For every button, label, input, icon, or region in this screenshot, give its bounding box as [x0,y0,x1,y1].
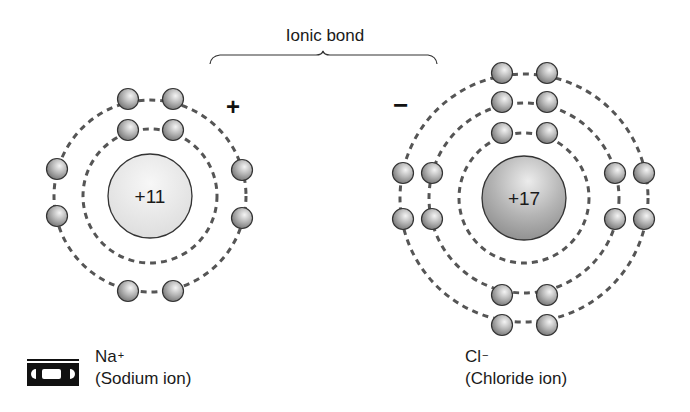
sodium-name-label: (Sodium ion) [95,369,191,389]
chloride-name-label: (Chloride ion) [465,369,567,389]
electron [492,285,513,306]
ionic-bond-label: Ionic bond [0,26,650,46]
electron [118,89,139,110]
sodium-atom: +11 [47,89,253,302]
electron [634,163,655,184]
ionic-bond-bracket [210,51,437,64]
ionic-bond-diagram: +11 [0,0,690,412]
video-cassette-icon[interactable] [27,359,79,386]
chloride-atom: +17 [393,63,655,336]
electron [537,315,558,336]
electron [163,120,184,141]
electron [47,159,68,180]
sodium-nucleus-label: +11 [135,186,166,207]
electron [47,206,68,227]
electron [118,120,139,141]
chloride-nucleus-label: +17 [508,188,540,209]
sodium-symbol-label: Na+ [95,347,124,367]
electron [492,63,513,84]
electron [393,209,414,230]
electron [537,63,558,84]
electron [537,285,558,306]
electron [422,209,443,230]
electron [605,209,626,230]
electron [422,163,443,184]
electron [232,208,253,229]
sodium-charge: + [118,349,124,361]
positive-charge-sign: + [226,93,240,121]
chloride-charge: − [482,349,488,361]
electron [492,92,513,113]
electron [537,123,558,144]
electron [537,92,558,113]
electron [605,163,626,184]
electron [634,209,655,230]
electron [232,160,253,181]
electron [393,163,414,184]
negative-charge-sign: − [393,90,408,121]
sodium-symbol: Na [95,347,117,366]
electron [492,123,513,144]
chloride-symbol-label: Cl− [465,347,489,367]
electron [163,89,184,110]
electron [163,281,184,302]
chloride-symbol: Cl [465,347,481,366]
electron [492,315,513,336]
electron [118,281,139,302]
